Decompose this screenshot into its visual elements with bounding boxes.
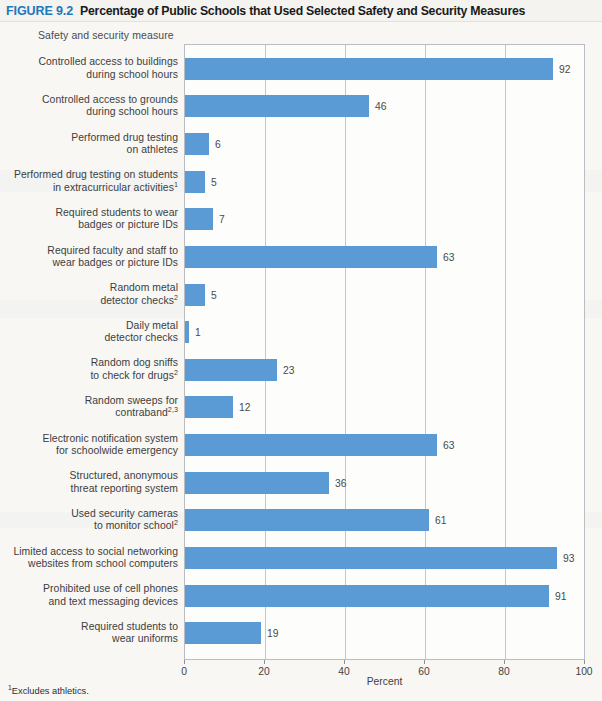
bar-row-label: Prohibited use of cell phonesand text me… — [0, 583, 178, 608]
label-footnote-marker: 2 — [174, 518, 178, 527]
y-axis-title: Safety and security measure — [38, 29, 174, 41]
bar-row: Used security camerasto monitor school26… — [0, 502, 602, 540]
bar-value-label: 1 — [195, 327, 201, 338]
bar — [185, 434, 437, 456]
bar-track: 93 — [185, 539, 585, 577]
bar — [185, 359, 277, 381]
label-footnote-marker: 2,3 — [168, 405, 178, 414]
bar-value-label: 36 — [335, 477, 346, 488]
bar-row: Controlled access to buildingsduring sch… — [0, 50, 602, 88]
bar-row-label: Random metaldetector checks2 — [0, 282, 178, 307]
bar — [185, 171, 205, 193]
bar-row: Prohibited use of cell phonesand text me… — [0, 577, 602, 615]
bar — [185, 472, 329, 494]
bar-row-label: Structured, anonymousthreat reporting sy… — [0, 470, 178, 495]
bar-row: Random metaldetector checks25 — [0, 276, 602, 314]
bar-row-label: Electronic notification systemfor school… — [0, 433, 178, 458]
footnote-text: Excludes athletics. — [12, 686, 89, 696]
footnote-1: 1Excludes athletics. — [8, 686, 89, 696]
bar — [185, 208, 213, 230]
bar-value-label: 46 — [375, 101, 386, 112]
bar — [185, 246, 437, 268]
bar-row: Random sweeps forcontraband2,312 — [0, 389, 602, 427]
bar-track: 36 — [185, 464, 585, 502]
bar-value-label: 23 — [283, 364, 294, 375]
bar-track: 63 — [185, 238, 585, 276]
bar-row: Controlled access to groundsduring schoo… — [0, 88, 602, 126]
bar-row-label: Required students to wearbadges or pictu… — [0, 207, 178, 232]
bar-track: 61 — [185, 502, 585, 540]
bar-value-label: 92 — [559, 63, 570, 74]
bar — [185, 321, 189, 343]
bar — [185, 58, 553, 80]
x-tick-40 — [344, 660, 345, 664]
label-footnote-marker: 2 — [174, 367, 178, 376]
bar-row-label: Daily metaldetector checks — [0, 320, 178, 345]
x-tick-20 — [264, 660, 265, 664]
bar-row-label: Random dog sniffsto check for drugs2 — [0, 357, 178, 382]
x-tick-60 — [424, 660, 425, 664]
bar-value-label: 7 — [219, 214, 225, 225]
bar-value-label: 63 — [443, 440, 454, 451]
bar-row: Required students to wearbadges or pictu… — [0, 201, 602, 239]
bar-row-label: Performed drug testingon athletes — [0, 132, 178, 157]
x-tick-80 — [504, 660, 505, 664]
bar-row: Structured, anonymousthreat reporting sy… — [0, 464, 602, 502]
bar-track: 12 — [185, 389, 585, 427]
x-tick-100 — [584, 660, 585, 664]
bar-row: Required students towear uniforms19 — [0, 614, 602, 652]
bar-row-label: Used security camerasto monitor school2 — [0, 508, 178, 533]
bar-row-label: Required students towear uniforms — [0, 621, 178, 646]
bar-row: Random dog sniffsto check for drugs223 — [0, 351, 602, 389]
footnote-area: 1Excludes athletics. — [8, 686, 408, 696]
bar-track: 23 — [185, 351, 585, 389]
label-footnote-marker: 2 — [174, 292, 178, 301]
bar-row: Required faculty and staff towear badges… — [0, 238, 602, 276]
bar-row: Performed drug testingon athletes6 — [0, 125, 602, 163]
x-axis: 020406080100 — [184, 660, 585, 661]
bar-value-label: 5 — [211, 176, 217, 187]
bar-row-label: Controlled access to groundsduring schoo… — [0, 94, 178, 119]
bar-value-label: 93 — [563, 552, 574, 563]
bar-rows-container: Controlled access to buildingsduring sch… — [0, 44, 602, 660]
bar-value-label: 91 — [555, 590, 566, 601]
bar-track: 5 — [185, 163, 585, 201]
bar-value-label: 5 — [211, 289, 217, 300]
bar-row: Performed drug testing on studentsin ext… — [0, 163, 602, 201]
bar-track: 46 — [185, 88, 585, 126]
figure-header: FIGURE 9.2 Percentage of Public Schools … — [0, 0, 602, 22]
bar — [185, 622, 261, 644]
bar-track: 63 — [185, 426, 585, 464]
x-tick-0 — [184, 660, 185, 664]
bar-row-label: Required faculty and staff towear badges… — [0, 245, 178, 270]
bar-value-label: 61 — [435, 515, 446, 526]
bar-row: Electronic notification systemfor school… — [0, 426, 602, 464]
bar-track: 91 — [185, 577, 585, 615]
bar — [185, 547, 557, 569]
label-footnote-marker: 1 — [174, 179, 178, 188]
bar-value-label: 19 — [267, 628, 278, 639]
figure-title: Percentage of Public Schools that Used S… — [80, 4, 525, 18]
bar — [185, 133, 209, 155]
bar-row-label: Limited access to social networkingwebsi… — [0, 546, 178, 571]
bar — [185, 284, 205, 306]
bar-track: 7 — [185, 201, 585, 239]
bar-row-label: Performed drug testing on studentsin ext… — [0, 169, 178, 194]
bar-value-label: 12 — [239, 402, 250, 413]
bar-value-label: 63 — [443, 251, 454, 262]
bar — [185, 509, 429, 531]
bar — [185, 396, 233, 418]
bar — [185, 585, 549, 607]
bar — [185, 95, 369, 117]
bar-track: 5 — [185, 276, 585, 314]
bar-track: 92 — [185, 50, 585, 88]
bar-row: Limited access to social networkingwebsi… — [0, 539, 602, 577]
bar-row: Daily metaldetector checks1 — [0, 313, 602, 351]
bar-track: 6 — [185, 125, 585, 163]
bar-value-label: 6 — [215, 139, 221, 150]
figure-number-label: FIGURE 9.2 — [6, 4, 73, 18]
bar-row-label: Random sweeps forcontraband2,3 — [0, 395, 178, 420]
bar-track: 1 — [185, 313, 585, 351]
bar-row-label: Controlled access to buildingsduring sch… — [0, 56, 178, 81]
bar-track: 19 — [185, 614, 585, 652]
